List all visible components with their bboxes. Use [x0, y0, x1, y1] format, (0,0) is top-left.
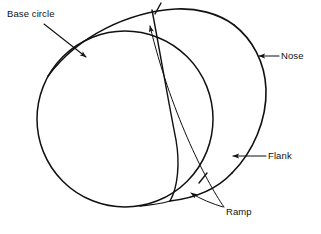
flank-curve — [170, 173, 232, 201]
ramp-curve — [48, 9, 234, 76]
cam-profile-figure: Base circle Nose Flank Ramp — [0, 0, 321, 234]
label-nose: Nose — [281, 50, 304, 61]
leader-base-circle — [44, 24, 86, 57]
ramp-tick-top-mark — [155, 3, 161, 14]
label-ramp: Ramp — [226, 206, 252, 217]
ramp-tick-lower-mark — [199, 173, 207, 183]
label-base-circle: Base circle — [7, 8, 55, 19]
cam-profile-drawing — [0, 0, 321, 234]
nose-curve — [232, 25, 266, 173]
label-flank: Flank — [268, 150, 292, 161]
